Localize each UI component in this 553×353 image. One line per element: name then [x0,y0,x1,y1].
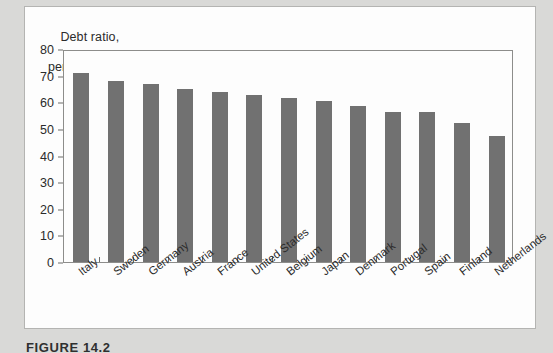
bar [454,123,470,262]
y-axis-tick-label: 40 [28,150,54,164]
y-axis-tick-label: 20 [28,203,54,217]
bar [177,89,193,262]
page-background: Debt ratio, percent 01020304050607080 It… [0,0,553,353]
y-axis-tick-label: 70 [28,70,54,84]
figure-card: Debt ratio, percent 01020304050607080 It… [24,6,536,329]
x-axis-tick-mark [99,257,100,262]
bar [350,106,366,262]
bar [108,81,124,262]
plot-area [63,50,513,263]
y-axis-tick-label: 10 [28,229,54,243]
bar [385,112,401,262]
y-axis-tick-label: 50 [28,123,54,137]
y-axis-tick-label: 0 [28,256,54,270]
figure-caption: FIGURE 14.2 [26,340,111,353]
y-axis-tick-label: 30 [28,176,54,190]
bar [212,92,228,262]
y-axis-tick-label: 80 [28,43,54,57]
bar [246,95,262,262]
y-axis-tick-label: 60 [28,96,54,110]
bar [73,73,89,262]
axis-title-line1: Debt ratio, [60,30,119,44]
bar [143,84,159,262]
bar [316,101,332,262]
bar [489,136,505,262]
bar [419,112,435,262]
